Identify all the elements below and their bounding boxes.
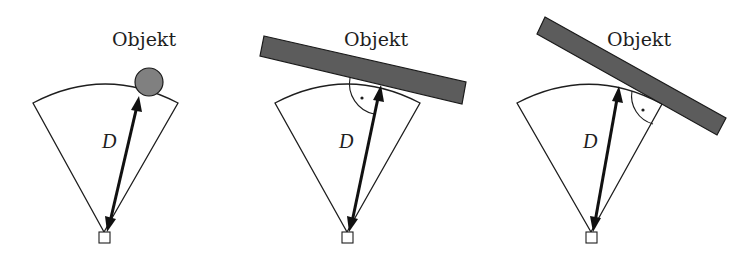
sensor-field-of-view xyxy=(517,84,662,232)
distance-label: D xyxy=(101,130,117,152)
distance-label: D xyxy=(582,130,598,152)
right-angle-dot xyxy=(641,108,644,111)
sensor-icon xyxy=(99,232,110,243)
object-label: Objekt xyxy=(607,28,671,50)
right-angle-dot xyxy=(360,96,363,99)
sensor-icon xyxy=(586,232,597,243)
panel-1: Objekt D xyxy=(33,28,178,243)
sensor-sector-diagram: Objekt D Objekt D xyxy=(0,0,755,262)
object-label: Objekt xyxy=(112,28,176,50)
panel-3: Objekt D xyxy=(517,17,726,243)
sensor-field-of-view xyxy=(33,84,178,232)
sensor-icon xyxy=(342,232,353,243)
distance-label: D xyxy=(338,130,354,152)
panel-2: Objekt D xyxy=(260,28,466,243)
circular-object xyxy=(135,68,163,96)
sensor-field-of-view xyxy=(275,84,420,232)
object-label: Objekt xyxy=(344,28,408,50)
